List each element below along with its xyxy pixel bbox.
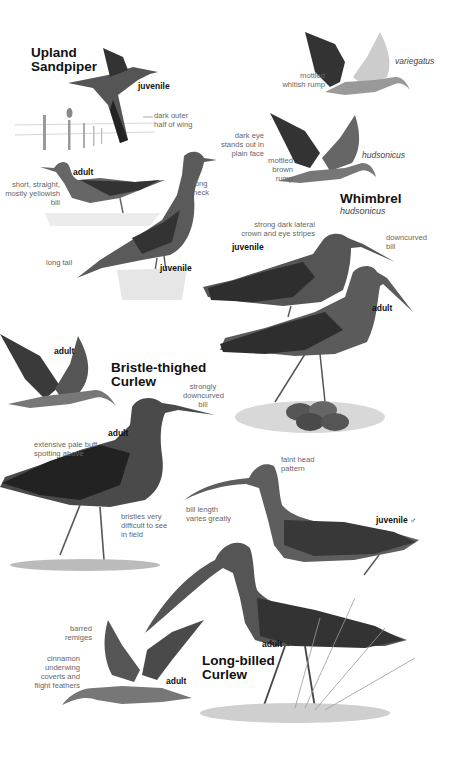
note-brown-rump: mottled brown rump	[253, 156, 293, 183]
age-label-btc-flight: adult	[54, 346, 74, 356]
age-label-lbc-adult-female: adult ♀	[262, 639, 291, 649]
upland-sandpiper-juvenile-flight	[68, 45, 163, 145]
note-cinnamon-underwing: cinnamon underwing coverts and flight fe…	[18, 654, 80, 690]
age-label-juvenile-standing: juvenile	[160, 263, 192, 273]
age-label-btc-standing: adult	[108, 428, 128, 438]
age-label-lbc-juvenile-male: juvenile ♂	[376, 515, 416, 525]
age-label-lbc-flight: adult	[166, 676, 186, 686]
note-pale-buff-spotting: extensive pale buff spotting above	[34, 440, 97, 458]
species-title-whimbrel: Whimbrel	[340, 192, 402, 206]
age-label-juvenile-flight: juvenile	[138, 81, 170, 91]
title-line-1: Bristle-thighed	[111, 361, 206, 375]
note-long-tail: long tail	[46, 258, 72, 267]
field-guide-page: Upland Sandpiper juvenile dark outer hal…	[0, 0, 456, 767]
title-line-2: Curlew	[202, 668, 275, 682]
age-label-whimbrel-juvenile: juvenile	[232, 242, 264, 252]
upland-sandpiper-juvenile-standing	[72, 150, 222, 305]
note-bill: short, straight, mostly yellowish bill	[0, 180, 60, 207]
note-whitish-rump: mottled whitish rump	[270, 71, 325, 89]
age-label-whimbrel-adult: adult	[372, 303, 392, 313]
note-barred-remiges: barred remiges	[30, 624, 92, 642]
subspecies-label-variegatus: variegatus	[395, 56, 434, 66]
leader-line	[143, 116, 153, 118]
whimbrel-adult	[215, 262, 415, 437]
note-dark-outer-wing: dark outer half of wing	[154, 111, 192, 129]
species-subtitle-whimbrel: hudsonicus	[340, 206, 386, 216]
note-long-neck: long neck	[193, 179, 209, 197]
title-line-1: Long-billed	[202, 654, 275, 668]
subspecies-label-hudsonicus: hudsonicus	[362, 150, 405, 160]
species-title-long-billed-curlew: Long-billed Curlew	[202, 654, 275, 682]
